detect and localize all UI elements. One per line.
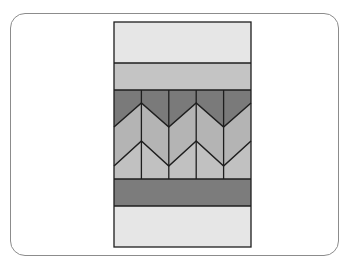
- medium-band: [114, 63, 251, 90]
- top-light-band: [114, 22, 251, 63]
- bottom-light-band: [114, 206, 251, 247]
- dark-band: [114, 179, 251, 206]
- quilt-block-diagram: [0, 0, 357, 264]
